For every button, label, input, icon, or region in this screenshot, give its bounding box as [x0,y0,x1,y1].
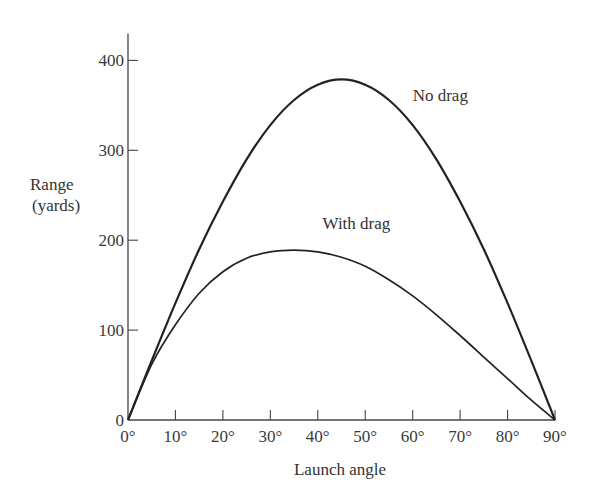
y-tick-label: 200 [99,231,125,250]
no-drag-curve [128,79,555,420]
no-drag-label: No drag [413,86,469,105]
y-tick-label: 400 [99,51,125,70]
with-drag-label: With drag [323,214,391,233]
x-tick-label: 60° [401,427,425,446]
x-tick-label: 50° [353,427,377,446]
range-vs-launch-angle-chart: 0°10°20°30°40°50°60°70°80°90°01002003004… [0,0,607,503]
x-tick-label: 40° [306,427,330,446]
y-tick-label: 300 [99,141,125,160]
x-tick-label: 90° [543,427,567,446]
with-drag-curve [128,250,555,420]
x-tick-label: 20° [211,427,235,446]
y-tick-label: 0 [116,411,125,430]
x-tick-label: 30° [258,427,282,446]
x-axis-title: Launch angle [294,460,386,479]
curves [128,79,555,420]
x-tick-label: 10° [164,427,188,446]
y-tick-label: 100 [99,321,125,340]
y-axis-title-line2: (yards) [32,196,80,215]
labels: 0°10°20°30°40°50°60°70°80°90°01002003004… [99,51,567,446]
y-axis-title-line1: Range [30,175,73,194]
x-tick-label: 70° [448,427,472,446]
x-tick-label: 80° [496,427,520,446]
